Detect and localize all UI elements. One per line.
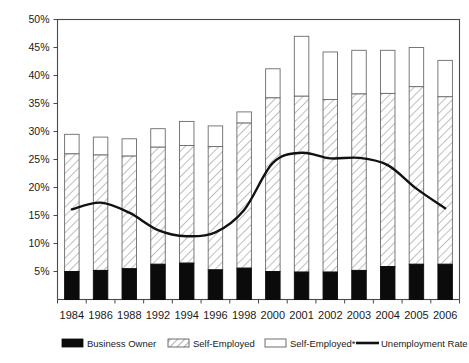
x-tick-label: 1986 xyxy=(88,309,112,321)
bar-segment-self-employed xyxy=(323,100,338,272)
bar-stack xyxy=(93,137,108,299)
x-tick-label: 1998 xyxy=(232,309,256,321)
bar-segment-self-employed-star xyxy=(93,137,108,155)
x-tick-label: 2004 xyxy=(375,309,399,321)
bar-segment-self-employed xyxy=(93,155,108,270)
bar-stack xyxy=(208,126,223,300)
chart-legend: Business OwnerSelf-EmployedSelf-Employed… xyxy=(62,338,468,349)
legend-item-label: Self-Employed* xyxy=(290,338,356,349)
legend-item-label: Business Owner xyxy=(87,338,156,349)
bar-segment-self-employed xyxy=(237,123,252,268)
y-tick-label: 5% xyxy=(34,265,49,277)
legend-item-label: Unemployment Rate xyxy=(381,338,468,349)
x-tick-label: 1984 xyxy=(60,309,84,321)
bar-segment-self-employed-star xyxy=(151,129,166,147)
bar-segment-self-employed xyxy=(65,154,80,272)
bar-segment-self-employed-star xyxy=(237,112,252,123)
bar-stack xyxy=(380,50,395,299)
bar-segment-business-owner xyxy=(438,264,453,299)
x-tick-label: 2001 xyxy=(289,309,313,321)
bar-segment-self-employed-star xyxy=(294,36,309,96)
y-tick-label: 25% xyxy=(28,153,49,165)
bar-segment-self-employed-star xyxy=(409,48,424,87)
bar-stack xyxy=(352,50,367,299)
bar-stack xyxy=(294,36,309,299)
bar-segment-business-owner xyxy=(237,268,252,299)
bar-segment-business-owner xyxy=(93,270,108,299)
legend-swatch-business-owner-icon xyxy=(62,339,83,347)
y-tick-label: 50% xyxy=(28,13,49,25)
bar-stack xyxy=(65,134,80,299)
bar-segment-business-owner xyxy=(352,270,367,299)
bar-stack xyxy=(237,112,252,300)
legend-swatch-self-employed-star-icon xyxy=(265,339,286,347)
x-tick-label: 1994 xyxy=(174,309,198,321)
bar-stack xyxy=(409,48,424,300)
bar-segment-self-employed xyxy=(438,97,453,264)
bar-segment-self-employed-star xyxy=(352,50,367,94)
bar-segment-business-owner xyxy=(65,272,80,300)
y-tick-label: 15% xyxy=(28,209,49,221)
bar-segment-self-employed-star xyxy=(122,139,136,156)
bar-segment-self-employed xyxy=(179,146,194,264)
y-tick-label: 20% xyxy=(28,181,49,193)
x-tick-label: 1992 xyxy=(146,309,170,321)
legend-item: Business Owner xyxy=(62,338,156,349)
bar-segment-self-employed-star xyxy=(179,121,194,145)
y-tick-label: 30% xyxy=(28,125,49,137)
bar-stack xyxy=(179,121,194,299)
bar-stack xyxy=(266,69,281,300)
bar-stack xyxy=(438,60,453,299)
y-tick-label: 40% xyxy=(28,69,49,81)
legend-item: Self-Employed xyxy=(168,338,255,349)
bar-segment-self-employed-star xyxy=(380,50,395,93)
bar-segment-self-employed xyxy=(208,147,223,270)
bar-segment-self-employed xyxy=(409,87,424,265)
legend-item-label: Self-Employed xyxy=(193,338,255,349)
bar-segment-self-employed-star xyxy=(65,134,80,154)
x-tick-label: 1988 xyxy=(117,309,141,321)
x-tick-label: 1996 xyxy=(203,309,227,321)
x-tick-label: 2006 xyxy=(433,309,457,321)
bar-segment-self-employed-star xyxy=(323,52,338,100)
bar-segment-self-employed-star xyxy=(438,60,453,96)
bar-segment-business-owner xyxy=(323,272,338,299)
y-tick-label: 35% xyxy=(28,97,49,109)
bar-segment-self-employed xyxy=(266,98,281,272)
y-tick-label: 45% xyxy=(28,41,49,53)
bar-stack xyxy=(323,52,338,300)
bar-segment-self-employed xyxy=(294,96,309,272)
bar-segment-self-employed-star xyxy=(208,126,223,147)
bar-segment-self-employed-star xyxy=(266,69,281,98)
stacked-bar-chart: 5%10%15%20%25%30%35%40%45%50% 1984198619… xyxy=(0,0,469,363)
bar-segment-business-owner xyxy=(179,263,194,299)
bar-segment-business-owner xyxy=(151,264,166,299)
bar-segment-self-employed xyxy=(352,94,367,270)
legend-swatch-self-employed-icon xyxy=(168,339,189,347)
x-tick-label: 2003 xyxy=(347,309,371,321)
bar-segment-business-owner xyxy=(294,272,309,299)
bar-segment-self-employed xyxy=(380,93,395,266)
bar-stack xyxy=(151,129,166,300)
bar-segment-business-owner xyxy=(380,266,395,299)
bar-segment-business-owner xyxy=(122,269,136,300)
x-tick-label: 2000 xyxy=(261,309,285,321)
legend-item: Self-Employed* xyxy=(265,338,356,349)
y-tick-label: 10% xyxy=(28,237,49,249)
bar-segment-business-owner xyxy=(208,270,223,300)
bar-segment-business-owner xyxy=(266,272,281,300)
chart-svg: 5%10%15%20%25%30%35%40%45%50% 1984198619… xyxy=(0,0,469,363)
x-tick-label: 2005 xyxy=(404,309,428,321)
bar-segment-business-owner xyxy=(409,264,424,299)
bar-segment-self-employed xyxy=(151,147,166,264)
bar-stack xyxy=(122,139,136,300)
x-tick-label: 2002 xyxy=(318,309,342,321)
